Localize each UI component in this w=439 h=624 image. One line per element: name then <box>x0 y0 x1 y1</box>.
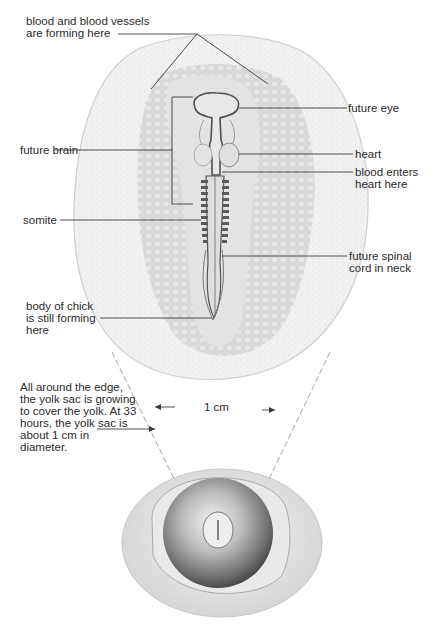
label-spinal-cord: future spinal cord in neck <box>349 250 412 274</box>
label-heart: heart <box>355 148 381 160</box>
label-future-eye: future eye <box>348 102 399 114</box>
label-future-brain: future brain <box>20 144 78 156</box>
label-somite: somite <box>23 214 57 226</box>
label-body-forming: body of chick is still forming here <box>26 300 96 336</box>
label-blood-enters: blood enters heart here <box>355 166 418 190</box>
label-blood-vessels: blood and blood vessels are forming here <box>26 15 149 39</box>
heart <box>219 143 239 167</box>
egg <box>122 469 322 617</box>
label-yolk-sac-note: All around the edge, the yolk sac is gro… <box>20 381 136 453</box>
label-scale: 1 cm <box>204 401 229 413</box>
